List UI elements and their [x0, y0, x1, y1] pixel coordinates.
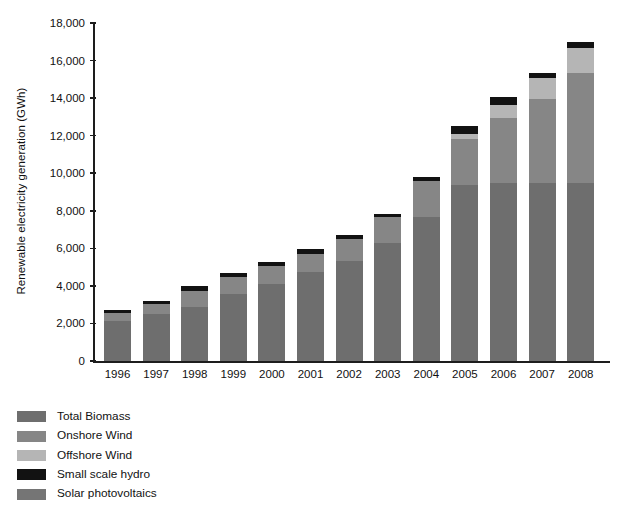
y-axis-tick-label: 12,000	[50, 130, 85, 142]
y-axis-tick	[90, 248, 96, 250]
bar-segment-offshore-wind	[490, 105, 517, 118]
bar-segment-onshore-wind	[567, 73, 594, 183]
legend-swatch-icon	[17, 450, 46, 461]
y-axis-tick-label: 0	[79, 355, 85, 367]
bar-segment-total-biomass	[143, 314, 170, 361]
bar-segment-onshore-wind	[181, 291, 208, 307]
bar-segment-onshore-wind	[529, 99, 556, 183]
y-axis-tick-label: 10,000	[50, 167, 85, 179]
bar-1996[interactable]	[104, 310, 131, 361]
bar-segment-total-biomass	[451, 185, 478, 362]
legend-swatch-icon	[17, 411, 46, 422]
bar-segment-onshore-wind	[297, 254, 324, 272]
y-axis-tick	[90, 97, 96, 99]
bar-segment-onshore-wind	[336, 239, 363, 262]
bar-2000[interactable]	[258, 262, 285, 362]
bar-segment-small-scale-hydro	[490, 97, 517, 105]
bar-1999[interactable]	[220, 273, 247, 361]
bar-2005[interactable]	[451, 126, 478, 361]
legend-item-label: Small scale hydro	[57, 469, 150, 481]
bar-segment-total-biomass	[297, 272, 324, 361]
y-axis-tick-label: 8,000	[56, 205, 85, 217]
chart-legend: Total BiomassOnshore WindOffshore WindSm…	[17, 407, 157, 504]
legend-swatch-icon	[17, 469, 46, 480]
y-axis-tick-label: 18,000	[50, 17, 85, 29]
bar-segment-onshore-wind	[374, 217, 401, 242]
bar-segment-total-biomass	[181, 307, 208, 361]
bar-segment-total-biomass	[104, 321, 131, 361]
bar-segment-small-scale-hydro	[451, 126, 478, 134]
y-axis-tick	[90, 60, 96, 62]
plot-area: 02,0004,0006,0008,00010,00012,00014,0001…	[93, 20, 610, 362]
legend-item-label: Onshore Wind	[57, 430, 132, 442]
bar-segment-total-biomass	[567, 183, 594, 361]
legend-item-label: Total Biomass	[57, 411, 130, 423]
legend-item[interactable]: Small scale hydro	[17, 465, 157, 484]
bar-segment-total-biomass	[490, 183, 517, 361]
x-axis-tick-label: 2008	[557, 368, 605, 380]
bar-2007[interactable]	[529, 73, 556, 361]
y-axis-tick	[90, 22, 96, 24]
bar-2008[interactable]	[567, 42, 594, 361]
y-axis-tick-label: 14,000	[50, 92, 85, 104]
legend-item-label: Offshore Wind	[57, 450, 132, 462]
bar-2003[interactable]	[374, 214, 401, 361]
bar-segment-onshore-wind	[451, 139, 478, 185]
y-axis-tick	[90, 172, 96, 174]
bar-segment-onshore-wind	[143, 304, 170, 314]
bar-segment-onshore-wind	[220, 277, 247, 294]
y-axis-line	[93, 24, 95, 362]
legend-item[interactable]: Total Biomass	[17, 407, 157, 426]
y-axis-tick-label: 4,000	[56, 280, 85, 292]
y-axis-tick	[90, 285, 96, 287]
bar-segment-offshore-wind	[529, 78, 556, 99]
legend-item[interactable]: Solar photovoltaics	[17, 485, 157, 504]
bar-segment-offshore-wind	[567, 48, 594, 72]
y-axis-tick	[90, 323, 96, 325]
legend-item[interactable]: Offshore Wind	[17, 446, 157, 465]
y-axis-tick	[90, 360, 96, 362]
bar-2002[interactable]	[336, 235, 363, 361]
y-axis-tick-label: 16,000	[50, 55, 85, 67]
chart-figure: Renewable electricity generation (GWh) 0…	[0, 0, 619, 513]
legend-swatch-icon	[17, 431, 46, 442]
x-axis-line	[93, 361, 610, 363]
bar-segment-onshore-wind	[104, 313, 131, 321]
bar-1997[interactable]	[143, 301, 170, 361]
bar-segment-onshore-wind	[258, 266, 285, 284]
bar-segment-total-biomass	[220, 294, 247, 361]
bar-segment-onshore-wind	[413, 181, 440, 218]
y-axis-tick-label: 6,000	[56, 242, 85, 254]
bar-segment-total-biomass	[529, 183, 556, 361]
y-axis-tick	[90, 135, 96, 137]
legend-swatch-icon	[17, 489, 46, 500]
bar-2001[interactable]	[297, 249, 324, 361]
bar-segment-total-biomass	[336, 261, 363, 361]
bar-segment-onshore-wind	[490, 118, 517, 183]
bar-2004[interactable]	[413, 177, 440, 361]
y-axis-tick	[90, 210, 96, 212]
y-axis-tick-label: 2,000	[56, 317, 85, 329]
legend-item-label: Solar photovoltaics	[57, 488, 157, 500]
bar-segment-total-biomass	[258, 284, 285, 361]
bar-2006[interactable]	[490, 97, 517, 361]
bar-1998[interactable]	[181, 286, 208, 361]
bar-segment-total-biomass	[413, 217, 440, 361]
y-axis-title: Renewable electricity generation (GWh)	[15, 31, 27, 351]
legend-item[interactable]: Onshore Wind	[17, 426, 157, 445]
bar-segment-total-biomass	[374, 243, 401, 361]
